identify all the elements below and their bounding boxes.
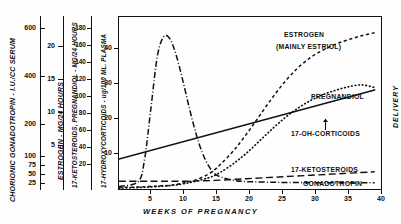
tick-kp-100: 100 (68, 92, 86, 99)
xtick-label-30: 30 (305, 195, 325, 202)
tick-kp-140: 140 (68, 58, 86, 65)
xtick-mark-5 (150, 190, 151, 194)
axis-title-gonadotropin: CHORIONIC GONADOTROPIN - I.U./CC SERUM (9, 38, 16, 202)
xtick-mark-40 (381, 190, 382, 194)
tick-hc-30: 30 (96, 79, 112, 86)
tick-kp-80: 80 (68, 109, 86, 116)
axis-title-hydroxycorticoids: 17-HYDROXYCORTICOIDS - ug/100 ML. PLASMA (100, 34, 107, 188)
tickmark-kp-80 (87, 113, 91, 114)
tickmark-kp-120 (87, 79, 91, 80)
tickmark-gonadotropin-600 (40, 28, 45, 29)
tickmark-gonadotropin-50 (40, 174, 45, 175)
series-label-17-oh-corticoids: 17-OH-CORTICOIDS (291, 130, 360, 137)
tick-kp-180: 180 (68, 24, 86, 31)
hormone-levels-chart: CHORIONIC GONADOTROPIN - I.U./CC SERUM 6… (0, 0, 401, 224)
tick-hc-40: 40 (96, 44, 112, 51)
xtick-mark-20 (249, 190, 250, 194)
tick-hc-10: 10 (96, 149, 112, 156)
panel-separator-2 (91, 16, 92, 190)
tickmark-estrogen-5 (58, 145, 63, 146)
tick-estrogen-20: 20 (40, 42, 55, 49)
xtick-label-10: 10 (173, 195, 193, 202)
tick-kp-160: 160 (68, 41, 86, 48)
tick-gonadotropin-100: 100 (18, 152, 36, 159)
xtick-mark-10 (183, 190, 184, 194)
tickmark-gonadotropin-75 (40, 165, 45, 166)
plot-area (118, 16, 382, 190)
xtick-label-35: 35 (338, 195, 358, 202)
series-label-pregnandiol: PREGNANDIOL (311, 93, 364, 100)
tickmark-estrogen-10 (58, 112, 63, 113)
xtick-mark-25 (282, 190, 283, 194)
curve-17-oh-corticoids (119, 90, 375, 159)
xtick-label-25: 25 (272, 195, 292, 202)
tickmark-estrogen-15 (58, 79, 63, 80)
tick-gonadotropin-400: 400 (18, 72, 36, 79)
tickmark-kp-40 (87, 147, 91, 148)
axis-title-estrogen: ESTROGEN - MG/24 HOURS (57, 82, 64, 180)
series-label-estrogen-line1: ESTROGEN (284, 31, 324, 38)
tick-estrogen-5: 5 (40, 141, 55, 148)
xtick-label-5: 5 (140, 195, 160, 202)
xtick-label-15: 15 (206, 195, 226, 202)
tick-kp-60: 60 (68, 126, 86, 133)
tickmark-gonadotropin-25 (40, 183, 45, 184)
series-label-estrogen-line2: (MAINLY ESTRIOL) (276, 43, 341, 50)
tick-gonadotropin-50: 50 (18, 170, 36, 177)
series-label-gonadotropin: GONADOTROPIN (303, 180, 362, 187)
curve-gonadotropin (119, 35, 375, 186)
tickmark-kp-100 (87, 96, 91, 97)
tick-gonadotropin-600: 600 (18, 24, 36, 31)
tick-kp-20: 20 (68, 160, 86, 167)
xtick-mark-15 (216, 190, 217, 194)
tickmark-estrogen-20 (58, 46, 63, 47)
tick-gonadotropin-200: 200 (18, 120, 36, 127)
tickmark-kp-60 (87, 130, 91, 131)
tick-estrogen-10: 10 (40, 108, 55, 115)
tickmark-kp-20 (87, 164, 91, 165)
xtick-mark-35 (348, 190, 349, 194)
tick-gonadotropin-25: 25 (18, 179, 36, 186)
series-label-17-ketosteroids: 17-KETOSTEROIDS (291, 166, 358, 173)
x-axis-title: WEEKS OF PREGNANCY (0, 207, 401, 216)
tickmark-gonadotropin-100 (40, 156, 45, 157)
curve-estrogen (119, 33, 375, 188)
tickmark-gonadotropin-200 (40, 124, 45, 125)
tickmark-kp-180 (87, 28, 91, 29)
curves-svg (119, 17, 381, 189)
tick-estrogen-15: 15 (40, 75, 55, 82)
tick-hc-20: 20 (96, 114, 112, 121)
xtick-label-20: 20 (239, 195, 259, 202)
tickmark-kp-140 (87, 62, 91, 63)
tick-gonadotropin-75: 75 (18, 161, 36, 168)
xtick-mark-30 (315, 190, 316, 194)
delivery-annotation: DELIVERY (392, 85, 399, 128)
corticoids-pointer-arrow (322, 118, 329, 130)
tickmark-kp-160 (87, 45, 91, 46)
tick-kp-40: 40 (68, 143, 86, 150)
tick-kp-120: 120 (68, 75, 86, 82)
xtick-label-40: 40 (371, 195, 391, 202)
